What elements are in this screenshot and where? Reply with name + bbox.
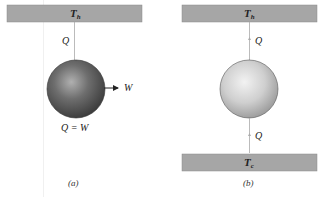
guide-line	[43, 0, 44, 197]
heat-label-b-bottom: Q	[255, 130, 263, 141]
panel-a: Th Q W Q = W (a)	[7, 5, 142, 188]
engine-sphere-a	[47, 60, 105, 118]
diagram: Th Q W Q = W (a) Th Q Q Tc (b)	[0, 0, 322, 197]
heat-arrow-top-icon	[248, 37, 251, 40]
work-label: W	[124, 82, 134, 93]
panel-b: Th Q Q Tc (b)	[182, 5, 317, 188]
equation-label: Q = W	[61, 122, 90, 133]
heat-label-a: Q	[62, 35, 70, 46]
engine-sphere-b	[220, 60, 278, 118]
heat-arrow-bottom-icon	[248, 133, 251, 136]
caption-b: (b)	[243, 178, 254, 188]
heat-label-b-top: Q	[255, 35, 263, 46]
caption-a: (a)	[68, 178, 79, 188]
